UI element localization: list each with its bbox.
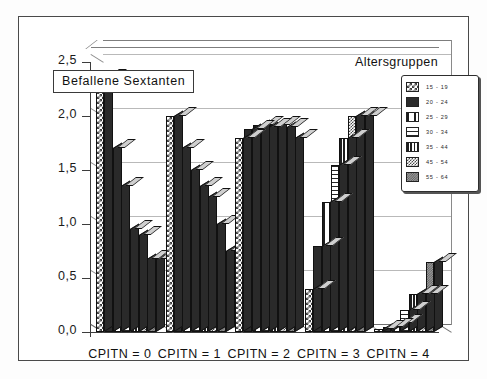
bar-side — [426, 289, 435, 332]
bar-side — [417, 289, 426, 332]
y-axis-title-box: Befallene Sextanten — [53, 70, 194, 93]
legend-item-label: 20 - 24 — [426, 99, 448, 105]
bar-side — [156, 253, 165, 332]
y-axis-tick-label: 0,0 — [35, 323, 77, 337]
x-axis-label: CPITN = 2 — [224, 347, 294, 361]
bar-side — [113, 143, 122, 332]
bar-side — [208, 191, 217, 332]
legend-item-label: 30 - 34 — [426, 129, 448, 135]
legend-swatch — [406, 127, 419, 137]
legend-swatch — [406, 97, 419, 107]
y-axis-tick-label: 0,5 — [35, 269, 77, 283]
bar-side — [356, 110, 365, 332]
legend-item[interactable]: 55 - 64 — [402, 169, 478, 184]
legend-item[interactable]: 25 - 29 — [402, 109, 478, 124]
bar-side — [365, 110, 374, 332]
bar-side — [434, 256, 443, 332]
bar-side — [200, 181, 209, 332]
x-axis-label: CPITN = 0 — [85, 347, 155, 361]
x-axis-label: CPITN = 1 — [155, 347, 225, 361]
back-wall-front-edge — [91, 47, 439, 48]
bar — [166, 116, 174, 332]
x-axis-label: CPITN = 4 — [363, 347, 433, 361]
bar-side — [226, 245, 235, 332]
y-axis-tick-label: 1,0 — [35, 215, 77, 229]
bar-side — [139, 229, 148, 332]
y-tick-depth-line — [91, 54, 104, 63]
bar-side — [339, 159, 348, 332]
bar — [96, 78, 104, 332]
bar-side — [191, 164, 200, 332]
bar-side — [269, 121, 278, 332]
bar-side — [287, 121, 296, 332]
bar-face — [235, 138, 243, 332]
bar-side — [174, 110, 183, 332]
legend-item-label: 15 - 19 — [426, 84, 448, 90]
legend-swatch — [406, 172, 419, 182]
y-axis-tick-label: 2,0 — [35, 107, 77, 121]
bar-side — [104, 73, 113, 332]
bar-side — [217, 218, 226, 332]
y-axis-tick-label: 1,5 — [35, 161, 77, 175]
bar-face — [166, 116, 174, 332]
bar-side — [330, 197, 339, 332]
y-axis-tick-label: 2,5 — [35, 53, 77, 67]
bar-top — [125, 177, 145, 186]
bar-face — [305, 289, 313, 332]
legend-swatch — [406, 112, 419, 122]
bar-side — [147, 253, 156, 332]
legend-item-label: 35 - 44 — [426, 144, 448, 150]
bar-side — [252, 123, 261, 332]
bar-side — [130, 224, 139, 332]
legend[interactable]: 15 - 1920 - 2425 - 2930 - 3435 - 4445 - … — [401, 75, 479, 192]
bar-side — [278, 119, 287, 332]
bar-side — [261, 119, 270, 332]
bar — [374, 329, 382, 332]
legend-swatch — [406, 142, 419, 152]
bar-side — [295, 132, 304, 332]
floor-front-edge — [91, 332, 439, 333]
legend-item[interactable]: 45 - 54 — [402, 154, 478, 169]
bar-side — [313, 283, 322, 332]
legend-item-label: 55 - 64 — [426, 174, 448, 180]
legend-item[interactable]: 30 - 34 — [402, 124, 478, 139]
legend-swatch — [406, 82, 419, 92]
legend-title: Altersgruppen — [355, 55, 438, 69]
chart-frame: 0,00,51,01,52,02,5 CPITN = 0CPITN = 1CPI… — [18, 16, 469, 361]
bar-side — [243, 132, 252, 332]
bar-face — [374, 329, 382, 332]
bar — [305, 289, 313, 332]
bar-top — [186, 139, 206, 148]
legend-item-label: 25 - 29 — [426, 114, 448, 120]
legend-item[interactable]: 20 - 24 — [402, 94, 478, 109]
legend-item[interactable]: 35 - 44 — [402, 139, 478, 154]
bar-side — [121, 181, 130, 332]
legend-item-label: 45 - 54 — [426, 159, 448, 165]
legend-swatch — [406, 157, 419, 167]
bar — [235, 138, 243, 332]
bar-face — [96, 78, 104, 332]
gridline — [103, 108, 451, 109]
bar-side — [182, 143, 191, 332]
x-axis-label: CPITN = 3 — [294, 347, 364, 361]
legend-item[interactable]: 15 - 19 — [402, 79, 478, 94]
back-wall-top-edge — [103, 40, 451, 41]
y-axis-line — [90, 62, 91, 337]
chart-root: 0,00,51,01,52,02,5 CPITN = 0CPITN = 1CPI… — [0, 0, 487, 379]
